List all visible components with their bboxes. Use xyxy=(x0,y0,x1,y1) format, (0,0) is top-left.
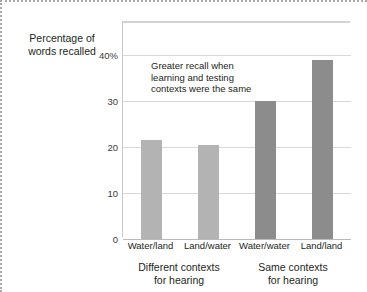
y-axis-label: Percentage of words recalled xyxy=(14,32,110,58)
bar xyxy=(198,145,219,239)
plot-area: 010203040% xyxy=(122,21,350,237)
y-tick-label: 20 xyxy=(107,142,118,153)
y-tick-label: 10 xyxy=(107,188,118,199)
group-label-line: Different contexts xyxy=(138,261,220,274)
x-axis-group-label: Different contextsfor hearing xyxy=(138,261,220,287)
x-axis-group-labels: Different contextsfor hearingSame contex… xyxy=(118,261,356,291)
group-label-line: Same contexts xyxy=(258,261,327,274)
y-tick-label: 30 xyxy=(107,96,118,107)
group-label-line: for hearing xyxy=(258,274,327,287)
bar xyxy=(312,60,333,239)
x-tick-label: Land/water xyxy=(184,240,231,251)
x-tick-label: Land/land xyxy=(301,240,343,251)
bar xyxy=(255,101,276,239)
x-axis-group-label: Same contextsfor hearing xyxy=(258,261,327,287)
bar xyxy=(141,140,162,239)
x-axis-category-labels: Water/landLand/waterWater/waterLand/land xyxy=(118,240,356,254)
x-tick-label: Water/land xyxy=(128,240,174,251)
chart-annotation: Greater recall when learning and testing… xyxy=(148,58,272,97)
y-tick-label: 40% xyxy=(99,50,118,61)
bars-group xyxy=(123,23,351,239)
x-tick-label: Water/water xyxy=(239,240,290,251)
group-label-line: for hearing xyxy=(138,274,220,287)
